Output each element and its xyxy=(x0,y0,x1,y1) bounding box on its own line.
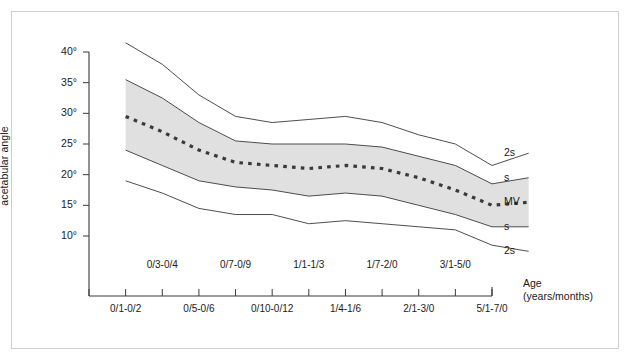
chart-canvas xyxy=(0,0,632,362)
x-tick-label-lower: 0/10-0/12 xyxy=(251,303,293,314)
x-tick-label-lower: 0/5-0/6 xyxy=(183,303,214,314)
x-tick-label-lower: 2/1-3/0 xyxy=(403,303,434,314)
series-label-2s: 2s xyxy=(504,244,515,256)
y-axis-title: acetabular angle xyxy=(0,96,10,236)
series-label-s: s xyxy=(504,220,509,232)
y-tick-label: 30° xyxy=(43,106,77,118)
x-tick-label-upper: 0/3-0/4 xyxy=(147,259,178,270)
y-tick-label: 20° xyxy=(43,168,77,180)
band-fill xyxy=(126,80,529,227)
x-tick-label-lower: 5/1-7/0 xyxy=(476,303,507,314)
x-tick-label-lower: 1/4-1/6 xyxy=(330,303,361,314)
x-tick-label-upper: 3/1-5/0 xyxy=(440,259,471,270)
x-axis-title-line1: Age xyxy=(523,277,593,290)
y-tick-label: 35° xyxy=(43,76,77,88)
x-tick-label-upper: 0/7-0/9 xyxy=(220,259,251,270)
x-tick-label-lower: 0/1-0/2 xyxy=(110,303,141,314)
x-axis-title-line2: (years/months) xyxy=(523,290,593,303)
x-tick-label-upper: 1/1-1/3 xyxy=(293,259,324,270)
series-label-MV: MV xyxy=(504,195,520,207)
y-tick-label: 25° xyxy=(43,137,77,149)
x-tick-label-upper: 1/7-2/0 xyxy=(367,259,398,270)
figure-root: acetabular angle 10°15°20°25°30°35°40° 0… xyxy=(0,0,632,362)
x-axis-title: Age (years/months) xyxy=(523,277,593,303)
series-label-s: s xyxy=(504,171,509,183)
y-tick-label: 10° xyxy=(43,229,77,241)
standard-deviation-band xyxy=(126,80,529,227)
series-label-2s: 2s xyxy=(504,146,515,158)
y-tick-label: 40° xyxy=(43,45,77,57)
y-tick-label: 15° xyxy=(43,198,77,210)
